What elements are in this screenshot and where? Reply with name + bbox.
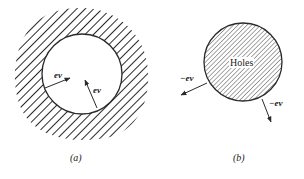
arrow-outward-left <box>181 83 207 95</box>
arrow-label-neg-ev-right: −ev <box>269 98 282 108</box>
caption-a: (a) <box>70 152 82 163</box>
arrow-label-ev-right: ev <box>93 85 101 95</box>
panel-b <box>181 23 282 122</box>
holes-label: Holes <box>229 57 254 68</box>
caption-b: (b) <box>233 152 245 163</box>
panel-a <box>0 0 170 150</box>
arrow-label-neg-ev-left: −ev <box>180 73 193 83</box>
arrow-label-ev-left: ev <box>54 70 62 80</box>
figure-canvas <box>0 0 304 179</box>
